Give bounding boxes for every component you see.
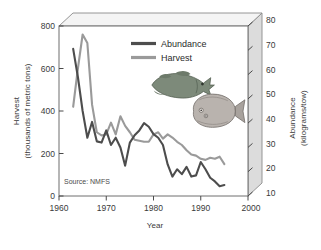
y2tick-30: 30: [266, 139, 276, 149]
chart-box-top-face: [59, 13, 262, 26]
xtick-2000: 2000: [242, 203, 261, 213]
y2-axis-title-line1: Abundance: [288, 97, 297, 139]
y2tick-20: 20: [266, 163, 276, 173]
ytick-800: 800: [41, 21, 55, 31]
y2-axis-title-line2: (kilograms/tow): [299, 90, 308, 146]
y2tick-40: 40: [266, 114, 276, 124]
left-axis-tick-labels: 0 200 400 600 800: [41, 21, 55, 201]
ytick-400: 400: [41, 106, 55, 116]
ytick-200: 200: [41, 149, 55, 159]
chart-figure: 0 200 400 600 800 10 20 30 40 50 60 70 8…: [0, 0, 321, 250]
y2tick-10: 10: [266, 188, 276, 198]
xtick-1980: 1980: [144, 203, 163, 213]
chart-box-right-face: [248, 13, 262, 196]
ytick-0: 0: [50, 191, 55, 201]
legend-label-abundance: Abundance: [161, 39, 207, 49]
y-axis-title-line1: Harvest: [12, 96, 21, 125]
xtick-1990: 1990: [191, 203, 210, 213]
x-axis-tick-labels: 1960 1970 1980 1990 2000: [50, 203, 261, 213]
xtick-1970: 1970: [97, 203, 116, 213]
xtick-1960: 1960: [50, 203, 69, 213]
y2tick-70: 70: [266, 40, 276, 50]
y2tick-50: 50: [266, 89, 276, 99]
harvest-abundance-line-chart: 0 200 400 600 800 10 20 30 40 50 60 70 8…: [0, 0, 321, 250]
ytick-600: 600: [41, 64, 55, 74]
x-axis-title: Year: [147, 221, 164, 230]
right-axis-tick-labels: 10 20 30 40 50 60 70 80: [266, 15, 276, 198]
source-annotation: Source: NMFS: [64, 178, 110, 185]
y2tick-60: 60: [266, 65, 276, 75]
y-axis-title-line2: (thousands of metric tons): [23, 63, 32, 158]
x-axis-ticks: [59, 196, 248, 201]
legend-label-harvest: Harvest: [161, 53, 193, 63]
y2tick-80: 80: [266, 15, 276, 25]
